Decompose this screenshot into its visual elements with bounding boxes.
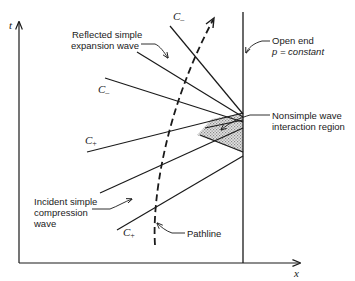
pathline-label: Pathline	[187, 228, 221, 239]
open-end-leader	[246, 41, 270, 53]
incident-label-1: Incident simple	[34, 196, 97, 207]
c-minus-top-label: C–	[173, 10, 184, 24]
interaction-label-1: Nonsimple wave	[272, 110, 342, 121]
open-end-label-1: Open end	[272, 35, 314, 46]
x-axis-label: x	[294, 268, 299, 279]
c-sub: –	[105, 88, 109, 97]
c-minus-line-3	[105, 78, 243, 122]
c-sub: –	[180, 15, 184, 24]
c-sub: +	[92, 139, 97, 148]
c-plus-line-2	[100, 128, 243, 193]
c-minus-line-2	[137, 52, 243, 117]
incident-label-2: compression	[34, 207, 88, 218]
reflected-wave-label-2: expansion wave	[71, 40, 139, 51]
c-plus-mid-label: C+	[85, 134, 97, 148]
interaction-label-2: interaction region	[272, 121, 345, 132]
c-plus-bottom-label: C+	[123, 226, 135, 240]
pathline-leader	[157, 223, 185, 233]
open-end-label-2: p = constant	[272, 46, 324, 57]
c-minus-mid-label: C–	[98, 83, 109, 97]
reflected-wave-label-1: Reflected simple	[72, 29, 142, 40]
c-minus-line-1	[170, 26, 243, 114]
c-sub: +	[130, 231, 135, 240]
t-axis-label: t	[9, 20, 12, 31]
c-plus-line-3	[117, 156, 243, 230]
incident-leader	[92, 199, 132, 209]
incident-label-3: wave	[34, 218, 56, 229]
pathline-arrowhead	[206, 18, 214, 28]
reflected-wave-leader	[141, 44, 168, 58]
